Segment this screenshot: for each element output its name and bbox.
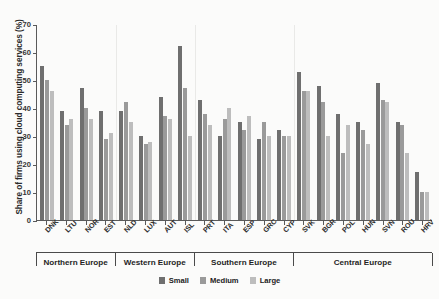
bar-cyp-small <box>277 130 281 220</box>
bar-hrv-small <box>415 172 419 220</box>
bar-esp-medium <box>242 130 246 220</box>
bar-pol-large <box>346 125 350 220</box>
bar-group <box>393 25 413 220</box>
legend-label: Large <box>260 276 281 285</box>
group-label: Northern Europe <box>43 258 107 267</box>
group-label: Central Europe <box>334 258 392 267</box>
y-tick-label: 0 <box>27 216 31 225</box>
bar-ltu-small <box>60 111 64 220</box>
bar-svn-medium <box>381 100 385 220</box>
bar-grc-small <box>257 139 261 220</box>
bar-pol-medium <box>341 153 345 220</box>
bar-aut-medium <box>163 116 167 220</box>
bar-bgr-medium <box>321 102 325 220</box>
chart-figure: Share of firms using cloud computing ser… <box>0 0 439 299</box>
legend-item-small: Small <box>159 276 189 285</box>
group-divider <box>115 253 116 266</box>
legend-label: Small <box>169 276 189 285</box>
bar-group <box>254 25 274 220</box>
bar-group <box>77 25 97 220</box>
bar-dnk-small <box>40 66 44 220</box>
bar-prt-small <box>198 100 202 220</box>
legend-swatch-medium <box>200 277 207 284</box>
bar-group <box>215 25 235 220</box>
bar-isl-small <box>178 46 182 220</box>
bar-group <box>37 25 57 220</box>
bar-prt-large <box>208 125 212 220</box>
group-northern-europe: Northern Europe <box>36 253 115 271</box>
y-tick-label: 10 <box>23 188 31 197</box>
bar-nld-medium <box>124 102 128 220</box>
legend-label: Medium <box>210 276 239 285</box>
bar-lux-large <box>148 142 152 220</box>
bar-lux-small <box>139 136 143 220</box>
y-tick-label: 40 <box>23 104 31 113</box>
y-tick-label: 70 <box>23 20 31 29</box>
legend-swatch-large <box>250 277 257 284</box>
group-central-europe: Central Europe <box>293 253 432 271</box>
y-tick-label: 20 <box>23 160 31 169</box>
bar-group <box>96 25 116 220</box>
x-axis-labels: DNKLTUNORESTNLDLUXAUTISLPRTITAESPGRCCYPS… <box>36 226 432 252</box>
bar-nld-large <box>129 122 133 220</box>
bar-svk-medium <box>302 91 306 220</box>
bar-ita-small <box>218 136 222 220</box>
bar-ltu-medium <box>65 125 69 220</box>
bar-esp-small <box>238 122 242 220</box>
bar-est-large <box>109 133 113 220</box>
bar-svk-small <box>297 72 301 220</box>
group-label: Southern Europe <box>211 258 277 267</box>
group-divider <box>36 253 37 266</box>
bar-nld-small <box>119 111 123 220</box>
group-divider <box>194 253 195 266</box>
bar-nor-medium <box>84 108 88 220</box>
y-tick-label: 60 <box>23 48 31 57</box>
bar-ltu-large <box>69 119 73 220</box>
plot-area: 010203040506070 <box>36 25 432 221</box>
y-axis-title: Share of firms using cloud computing ser… <box>14 2 24 232</box>
bar-groups <box>37 25 432 220</box>
group-label: Western Europe <box>124 258 186 267</box>
bar-group <box>314 25 334 220</box>
bar-est-medium <box>104 139 108 220</box>
bar-rou-large <box>405 153 409 220</box>
bar-group <box>294 25 314 220</box>
bar-group <box>412 25 432 220</box>
bar-rou-small <box>396 122 400 220</box>
bar-cyp-medium <box>282 136 286 220</box>
y-tick-label: 50 <box>23 76 31 85</box>
bar-ita-large <box>227 108 231 220</box>
bar-isl-large <box>188 136 192 220</box>
bar-isl-medium <box>183 88 187 220</box>
group-southern-europe: Southern Europe <box>194 253 293 271</box>
bar-group <box>353 25 373 220</box>
bar-dnk-large <box>50 91 54 220</box>
bar-dnk-medium <box>45 80 49 220</box>
bar-group <box>175 25 195 220</box>
bar-hun-small <box>356 122 360 220</box>
bar-pol-small <box>336 114 340 220</box>
bar-aut-small <box>159 97 163 220</box>
bar-hrv-large <box>425 192 429 220</box>
legend-item-medium: Medium <box>200 276 239 285</box>
bar-nor-large <box>89 119 93 220</box>
bar-est-small <box>99 111 103 220</box>
bar-group <box>116 25 136 220</box>
bar-group <box>57 25 77 220</box>
bar-bgr-small <box>317 86 321 220</box>
bar-group <box>156 25 176 220</box>
bar-hrv-medium <box>420 192 424 220</box>
bar-cyp-large <box>287 136 291 220</box>
bar-bgr-large <box>326 136 330 220</box>
legend-item-large: Large <box>250 276 281 285</box>
bar-group <box>373 25 393 220</box>
bar-aut-large <box>168 119 172 220</box>
bar-group <box>333 25 353 220</box>
group-divider <box>432 253 433 266</box>
bar-svk-large <box>306 91 310 220</box>
legend-swatch-small <box>159 277 166 284</box>
bar-nor-small <box>80 88 84 220</box>
bar-svn-large <box>385 102 389 220</box>
bar-hun-large <box>366 144 370 220</box>
bar-svn-small <box>376 83 380 220</box>
